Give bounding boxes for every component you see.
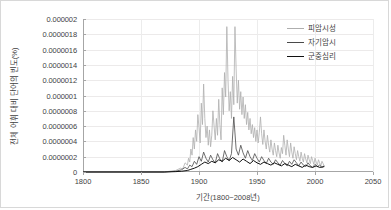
legend-item[interactable]: 자기암시 bbox=[287, 38, 336, 47]
y-axis-tick-label: 0.0000012 bbox=[42, 76, 77, 85]
y-axis-tick-mark bbox=[83, 19, 86, 20]
x-axis-tick-label: 2050 bbox=[365, 177, 382, 186]
x-axis-tick-mark bbox=[141, 172, 142, 175]
y-axis-tick-labels: 0.0000020.00000180.00000160.00000140.000… bbox=[1, 19, 77, 172]
y-axis-tick-mark bbox=[83, 157, 86, 158]
y-axis-tick-mark bbox=[83, 65, 86, 66]
y-axis-tick-label: 0.000001 bbox=[47, 91, 77, 100]
y-axis-tick-label: 0.0000006 bbox=[42, 122, 77, 131]
y-axis-tick-mark bbox=[83, 80, 86, 81]
legend-item[interactable]: 군중심리 bbox=[287, 52, 336, 61]
y-axis-tick-label: 0.0000004 bbox=[42, 137, 77, 146]
y-axis-tick-label: 0.0000014 bbox=[42, 60, 77, 69]
legend-label: 피암시성 bbox=[308, 24, 336, 33]
x-axis-tick-label: 1850 bbox=[133, 177, 150, 186]
x-axis-title: 기간(1800~2008년) bbox=[83, 191, 373, 202]
y-axis-tick-label: 0.0000016 bbox=[42, 45, 77, 54]
x-axis-tick-mark bbox=[257, 172, 258, 175]
chart-legend: 피암시성자기암시군중심리 bbox=[287, 24, 336, 61]
series-line bbox=[83, 157, 324, 172]
legend-swatch-icon bbox=[287, 56, 304, 57]
y-axis-tick-label: 0.0000008 bbox=[42, 106, 77, 115]
y-axis-tick-mark bbox=[83, 50, 86, 51]
gridline bbox=[373, 19, 374, 172]
y-axis-tick-mark bbox=[83, 141, 86, 142]
y-axis-tick-mark bbox=[83, 172, 86, 173]
y-axis-tick-label: 0 bbox=[73, 168, 77, 177]
legend-swatch-icon bbox=[287, 28, 304, 29]
x-axis-tick-label: 1800 bbox=[75, 177, 92, 186]
x-axis-tick-mark bbox=[199, 172, 200, 175]
y-axis-tick-mark bbox=[83, 111, 86, 112]
x-axis-tick-label: 1900 bbox=[191, 177, 208, 186]
x-axis-tick-labels: 180018501900195020002050 bbox=[83, 172, 373, 188]
y-axis-tick-mark bbox=[83, 34, 86, 35]
chart-container: 전체 어휘 대비 단어의 빈도(%) 0.0000020.00000180.00… bbox=[0, 0, 389, 208]
legend-item[interactable]: 피암시성 bbox=[287, 24, 336, 33]
x-axis-tick-label: 1950 bbox=[249, 177, 266, 186]
legend-swatch-icon bbox=[287, 42, 304, 43]
legend-label: 자기암시 bbox=[308, 38, 336, 47]
y-axis-tick-mark bbox=[83, 126, 86, 127]
x-axis-tick-mark bbox=[315, 172, 316, 175]
y-axis-tick-mark bbox=[83, 96, 86, 97]
legend-label: 군중심리 bbox=[308, 52, 336, 61]
x-axis-tick-label: 2000 bbox=[307, 177, 324, 186]
y-axis-tick-label: 0.0000002 bbox=[42, 152, 77, 161]
y-axis-tick-label: 0.0000018 bbox=[42, 30, 77, 39]
x-axis-tick-mark bbox=[373, 172, 374, 175]
y-axis-tick-label: 0.000002 bbox=[47, 15, 77, 24]
